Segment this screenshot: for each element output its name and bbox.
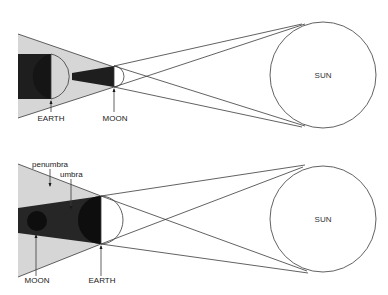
moon-arrow-icon	[113, 88, 116, 112]
umbra-label: umbra	[60, 170, 83, 179]
moon-label: MOON	[103, 114, 128, 123]
lunar-eclipse-diagram: SUN penumbra umbra MOON EARTH	[18, 160, 376, 285]
sun-label: SUN	[315, 215, 332, 224]
penumbra-label: penumbra	[32, 160, 69, 169]
sun-label: SUN	[315, 71, 332, 80]
earth-label: EARTH	[89, 276, 116, 285]
solar-eclipse-diagram: SUN EARTH MOON	[18, 22, 376, 128]
earth-label: EARTH	[38, 114, 65, 123]
eclipse-diagrams: SUN EARTH MOON SUN	[0, 0, 388, 295]
moon-label: MOON	[25, 276, 50, 285]
earth-arrow-icon	[100, 245, 103, 276]
moon-in-umbra	[27, 211, 47, 231]
